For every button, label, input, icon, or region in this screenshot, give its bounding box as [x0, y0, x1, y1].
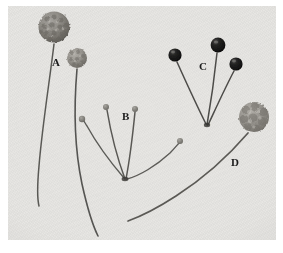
specimen-b-stalk-3: [126, 112, 135, 179]
panel-label-c: C: [199, 61, 207, 72]
specimen-b: [83, 110, 180, 181]
specimen-b-head-1: [79, 116, 85, 122]
panel-label-d: D: [231, 157, 239, 168]
specimen-c-head-1: [168, 48, 181, 61]
specimen-b-node: [122, 177, 129, 181]
specimen-a-stalk-2: [75, 69, 98, 236]
specimen-b-head-3: [132, 106, 138, 112]
specimen-c-head-2: [211, 38, 226, 53]
figure-plate: A B C D: [0, 0, 283, 253]
specimen-a: [38, 44, 99, 236]
specimen-b-head-4: [177, 138, 183, 144]
specimen-b-head-2: [103, 104, 109, 110]
specimen-a-head-small: [67, 48, 87, 68]
specimen-illustration: [8, 6, 276, 240]
photograph-plate: A B C D: [8, 6, 276, 240]
specimen-a-stalk-1: [38, 44, 55, 206]
specimen-b-stalk-1: [83, 120, 124, 178]
specimen-a-head-large: [39, 12, 70, 43]
specimen-b-stalk-4: [127, 142, 180, 179]
specimen-d: [128, 133, 248, 221]
panel-label-b: B: [122, 111, 130, 122]
specimen-c-head-3: [229, 57, 242, 70]
specimen-c-node: [204, 123, 210, 127]
specimen-d-head: [239, 102, 269, 132]
panel-label-a: A: [52, 57, 60, 68]
specimen-c-stalk-2: [207, 53, 217, 125]
specimen-d-stalk: [128, 133, 248, 221]
